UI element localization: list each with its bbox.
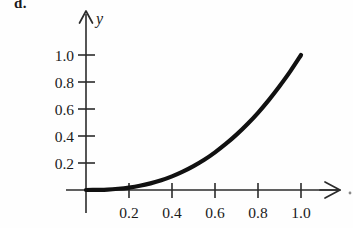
x-tick-label-3: 0.6 bbox=[205, 204, 225, 221]
x-tick-label-2: 0.4 bbox=[162, 204, 182, 221]
y-tick-label-5: 1.0 bbox=[55, 47, 75, 64]
y-tick-label-3: 0.6 bbox=[55, 101, 75, 118]
y-tick-label-1: 0.2 bbox=[55, 155, 74, 172]
y-tick-label-2: 0.4 bbox=[55, 128, 75, 145]
x-tick-label-5: 1.0 bbox=[291, 204, 311, 221]
x-axis-edge-mark bbox=[349, 192, 352, 195]
y-axis-label: y bbox=[94, 10, 104, 28]
x-tick-label-1: 0.2 bbox=[119, 204, 138, 221]
graph-svg: 1.0 0.8 0.6 0.4 0.2 0.2 0.4 0.6 0.8 1.0 … bbox=[0, 0, 353, 228]
data-curve bbox=[86, 55, 301, 190]
x-tick-label-4: 0.8 bbox=[248, 204, 268, 221]
figure-container: d. 1.0 0.8 0.6 0.4 0.2 0.2 0.4 0 bbox=[0, 0, 353, 228]
y-tick-label-4: 0.8 bbox=[55, 74, 75, 91]
